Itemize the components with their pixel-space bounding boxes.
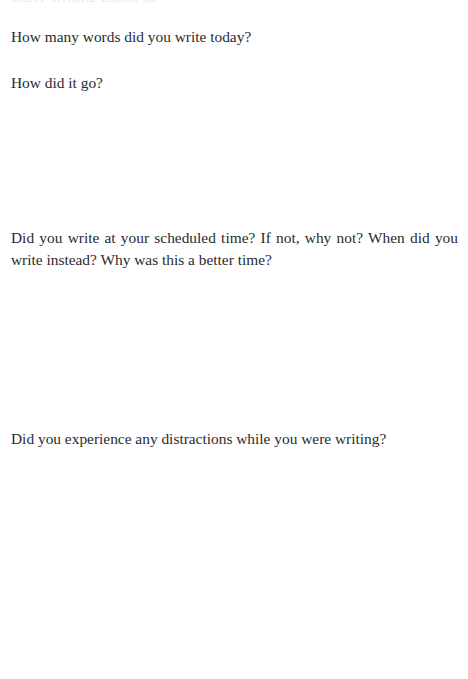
- answer-space-distractions[interactable]: [11, 452, 458, 674]
- answer-space-scheduled-time[interactable]: [11, 274, 458, 424]
- prompt-scheduled-time: Did you write at your scheduled time? If…: [11, 227, 458, 271]
- document-page: Daily writing check-in How many words di…: [0, 0, 468, 679]
- answer-space-how-did-it-go[interactable]: [11, 96, 458, 222]
- prompt-distractions: Did you experience any distractions whil…: [11, 428, 451, 450]
- prompt-how-did-it-go: How did it go?: [11, 72, 271, 94]
- prompt-word-count: How many words did you write today?: [11, 26, 311, 48]
- clipped-previous-line: Daily writing check-in: [11, 0, 183, 2]
